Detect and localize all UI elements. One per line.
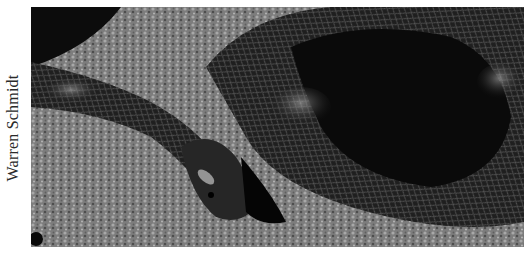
photo-credit: Warren Schmidt <box>4 75 22 182</box>
snake-photo <box>31 7 524 247</box>
snake-illustration <box>31 7 524 247</box>
